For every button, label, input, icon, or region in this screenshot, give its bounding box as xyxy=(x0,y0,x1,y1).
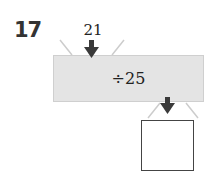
answer-box[interactable] xyxy=(141,120,194,171)
arrow-down-icon xyxy=(160,97,175,114)
arrow-down-icon xyxy=(84,40,99,58)
